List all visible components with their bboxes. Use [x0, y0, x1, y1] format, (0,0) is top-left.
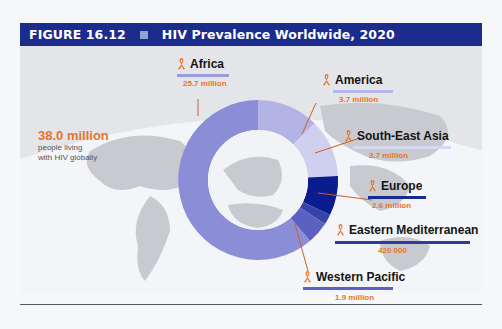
underline-south-east-asia — [353, 146, 451, 149]
total-value: 38.0 million — [38, 128, 109, 143]
separator-square-icon — [140, 31, 148, 39]
awareness-ribbon-icon — [177, 57, 186, 70]
value-south-east-asia: 3.7 million — [369, 151, 408, 160]
label-africa: Africa — [177, 57, 224, 71]
total-line-1: people living — [38, 143, 109, 153]
chart-panel: 38.0 million people living with HIV glob… — [20, 46, 482, 294]
label-western-pacific: Western Pacific — [303, 270, 405, 284]
donut-chart — [178, 100, 338, 260]
figure-number: FIGURE 16.12 — [29, 27, 126, 42]
underline-europe — [368, 196, 426, 199]
label-south-east-asia: South-East Asia — [344, 129, 449, 143]
value-europe: 2.6 million — [372, 201, 411, 210]
awareness-ribbon-icon — [303, 270, 312, 283]
value-africa: 25.7 million — [183, 79, 227, 88]
value-america: 3.7 million — [339, 95, 378, 104]
label-eastern-mediterranean: Eastern Mediterranean — [336, 223, 478, 237]
label-europe: Europe — [368, 179, 422, 193]
bottom-rule — [20, 304, 482, 305]
underline-america — [333, 90, 393, 93]
world-map-background — [20, 46, 482, 294]
awareness-ribbon-icon — [336, 223, 345, 236]
awareness-ribbon-icon — [368, 179, 377, 192]
total-line-2: with HIV globally — [38, 153, 109, 163]
total-annotation: 38.0 million people living with HIV glob… — [38, 128, 109, 163]
value-eastern-mediterranean: 420 000 — [378, 246, 407, 255]
awareness-ribbon-icon — [322, 73, 331, 86]
underline-eastern-mediterranean — [335, 241, 470, 244]
figure-header: FIGURE 16.12 HIV Prevalence Worldwide, 2… — [20, 23, 482, 46]
underline-africa — [177, 74, 229, 77]
underline-western-pacific — [303, 287, 393, 290]
label-america: America — [322, 73, 382, 87]
awareness-ribbon-icon — [344, 129, 353, 142]
figure-title: HIV Prevalence Worldwide, 2020 — [162, 27, 395, 42]
value-western-pacific: 1.9 million — [335, 293, 374, 302]
